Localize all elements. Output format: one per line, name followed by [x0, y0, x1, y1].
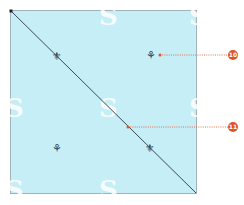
callout-11-dot	[127, 126, 130, 129]
fleur-de-lis-icon: ⚜	[145, 143, 155, 154]
corner-marker	[10, 10, 13, 13]
fleur-de-lis-icon: ⚜	[52, 51, 62, 62]
callout-badge-11: 11	[228, 122, 238, 132]
callout-10-dot	[159, 54, 162, 57]
callout-badge-10: 10	[228, 50, 238, 60]
quilt-diagram: S S S S S S S ⚜ ⚜ ⚘ ⚘ 10 11	[0, 0, 244, 205]
sprig-icon: ⚘	[146, 50, 156, 61]
diagram-lines	[0, 0, 244, 205]
diagonal-seam-line	[11, 11, 196, 193]
sprig-icon: ⚘	[52, 143, 62, 154]
